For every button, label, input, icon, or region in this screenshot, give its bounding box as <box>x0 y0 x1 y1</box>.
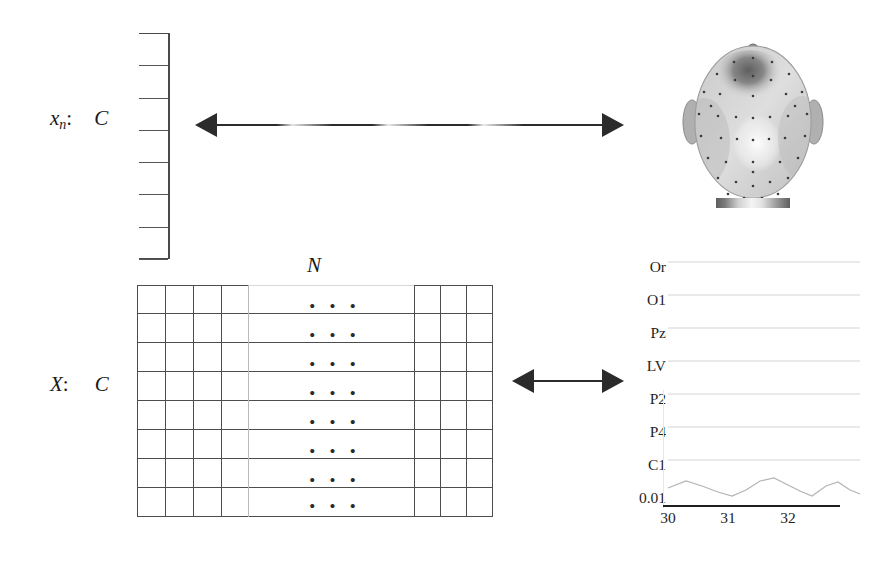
matrix-column-rule <box>193 285 194 517</box>
matrix-symbol: X <box>50 372 63 396</box>
matrix-ellipsis: • • • <box>305 384 365 404</box>
vector-cell <box>139 163 168 195</box>
eeg-x-axis-labels: 30 31 32 <box>620 509 876 531</box>
matrix-column-rule <box>440 285 441 517</box>
eeg-timeseries-plot: Or O1 Pz LV P2 P4 C1 0.01 <box>620 250 876 540</box>
eeg-x-tick-label: 32 <box>780 509 796 527</box>
matrix-colon: : <box>63 372 69 396</box>
vector-symbol: x <box>50 106 59 130</box>
matrix-column-rule <box>248 285 249 517</box>
vector-colon: : <box>66 106 72 130</box>
topography-svg <box>668 22 838 212</box>
eeg-x-axis-line <box>663 505 840 507</box>
matrix-column-rule <box>414 285 415 517</box>
matrix-X: • • • • • • • • • • • • • • • • • • • • … <box>137 285 493 517</box>
matrix-ellipsis: • • • <box>305 413 365 433</box>
arrow-shaft <box>213 124 611 126</box>
matrix-column-rule <box>137 285 138 517</box>
eeg-x-tick-label: 31 <box>720 509 736 527</box>
eeg-traces-svg <box>660 250 876 508</box>
matrix-column-rule <box>221 285 222 517</box>
matrix-ellipsis: • • • <box>305 297 365 317</box>
vector-cell <box>139 131 168 163</box>
vector-cell <box>139 195 168 227</box>
matrix-ellipsis: • • • <box>305 326 365 346</box>
matrix-ellipsis: • • • <box>305 442 365 462</box>
vector-cell <box>139 66 168 98</box>
vector-cell <box>139 99 168 131</box>
topography-field <box>678 50 826 212</box>
vector-dimension-label: C <box>94 106 108 130</box>
eeg-active-trace <box>668 478 860 496</box>
matrix-ellipsis: • • • <box>305 471 365 491</box>
figure-canvas: xn:C <box>0 0 876 567</box>
matrix-column-rule <box>492 285 493 517</box>
matrix-column-rule <box>165 285 166 517</box>
eeg-flat-traces <box>668 262 860 460</box>
eeg-scalp-topography <box>668 22 838 212</box>
matrix-column-rule <box>466 285 467 517</box>
arrow-head-left <box>195 113 217 137</box>
arrow-head-right <box>602 113 624 137</box>
eeg-trace-area <box>660 250 876 508</box>
matrix-ellipsis: • • • <box>305 497 365 517</box>
matrix-column-dimension-label: N <box>307 253 321 278</box>
column-vector-x-n <box>139 33 170 259</box>
arrow-shaft <box>530 380 610 382</box>
matrix-label: X:C <box>50 372 109 397</box>
vector-cell <box>139 34 168 66</box>
matrix-row-dimension-label: C <box>95 372 109 396</box>
vector-cell <box>139 228 168 260</box>
arrow-head-left <box>512 369 534 393</box>
vector-label: xn:C <box>50 106 108 133</box>
topography-colorbar <box>716 198 790 208</box>
matrix-ellipsis: • • • <box>305 355 365 375</box>
eeg-x-tick-label: 30 <box>660 509 676 527</box>
